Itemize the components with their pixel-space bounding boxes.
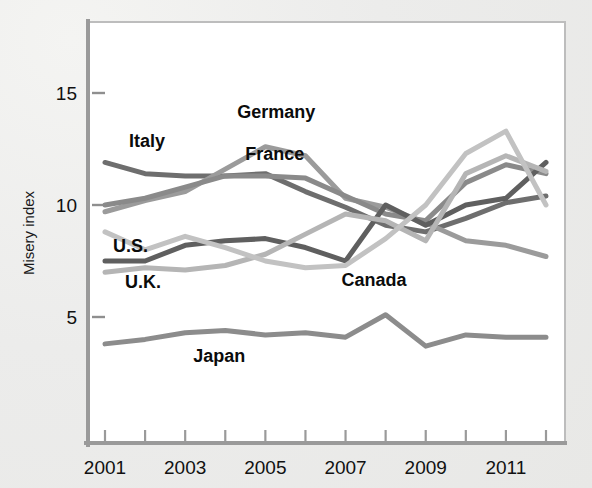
x-tick-label-2009: 2009 <box>405 457 447 478</box>
y-axis-title: Misery index <box>20 190 37 275</box>
x-tick-label-2011: 2011 <box>485 457 526 478</box>
chart-canvas: ItalyGermanyFranceU.S.U.K.CanadaJapan 51… <box>0 0 592 488</box>
y-tick-label-5: 5 <box>66 307 77 328</box>
x-tick-label-2003: 2003 <box>164 457 206 478</box>
series-label-france: France <box>245 144 304 164</box>
x-tick-label-2001: 2001 <box>84 457 126 478</box>
y-tick-label-10: 10 <box>56 195 77 216</box>
misery-index-chart-figure: ItalyGermanyFranceU.S.U.K.CanadaJapan 51… <box>0 0 592 488</box>
x-axis-tick-labels: 200120032005200720092011 <box>84 457 526 478</box>
x-tick-label-2007: 2007 <box>324 457 366 478</box>
series-label-italy: Italy <box>129 131 165 151</box>
y-tick-label-15: 15 <box>56 83 77 104</box>
series-label-germany: Germany <box>237 102 315 122</box>
plot-area-background <box>86 21 565 445</box>
series-label-japan: Japan <box>193 346 245 366</box>
series-label-us: U.S. <box>113 236 148 256</box>
series-label-canada: Canada <box>342 270 408 290</box>
y-axis-tick-labels: 51015 <box>56 83 77 328</box>
series-label-uk: U.K. <box>125 272 161 292</box>
x-tick-label-2005: 2005 <box>244 457 286 478</box>
